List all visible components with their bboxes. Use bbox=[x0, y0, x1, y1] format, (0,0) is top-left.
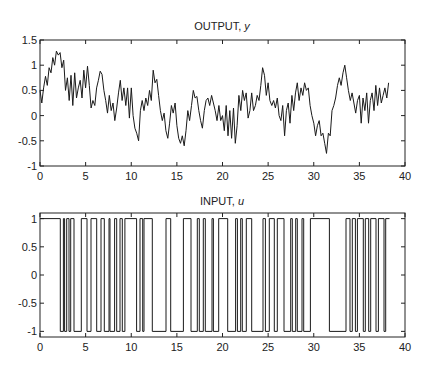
output-plot: OUTPUT, y 0510152025303540-1-0.500.511.5 bbox=[18, 20, 411, 182]
x-tick-label: 35 bbox=[353, 170, 365, 182]
x-tick-label: 10 bbox=[125, 170, 137, 182]
figure: OUTPUT, y 0510152025303540-1-0.500.511.5… bbox=[0, 0, 434, 373]
x-tick-label: 35 bbox=[353, 341, 365, 353]
x-tick-label: 15 bbox=[171, 341, 183, 353]
y-tick-label: -1 bbox=[27, 325, 37, 337]
y-tick-label: 1 bbox=[31, 213, 37, 225]
y-tick-label: 0.5 bbox=[22, 241, 37, 253]
x-tick-label: 25 bbox=[262, 341, 274, 353]
x-tick-label: 5 bbox=[83, 341, 89, 353]
x-tick-label: 5 bbox=[83, 170, 89, 182]
y-tick-label: -0.5 bbox=[18, 135, 37, 147]
x-tick-label: 0 bbox=[37, 170, 43, 182]
y-tick-label: -0.5 bbox=[18, 297, 37, 309]
x-tick-label: 25 bbox=[262, 170, 274, 182]
x-tick-label: 40 bbox=[399, 341, 411, 353]
input-plot: INPUT, u 0510152025303540-1-0.500.51 bbox=[18, 195, 411, 353]
y-tick-label: 0 bbox=[31, 110, 37, 122]
input-series-line bbox=[40, 219, 390, 332]
y-tick-label: 1 bbox=[31, 59, 37, 71]
x-tick-label: 30 bbox=[308, 170, 320, 182]
input-plot-title: INPUT, u bbox=[200, 195, 244, 207]
output-series-line bbox=[40, 51, 389, 153]
x-tick-label: 20 bbox=[216, 341, 228, 353]
x-tick-label: 0 bbox=[37, 341, 43, 353]
x-tick-label: 20 bbox=[216, 170, 228, 182]
y-tick-label: 1.5 bbox=[22, 34, 37, 46]
x-tick-label: 10 bbox=[125, 341, 137, 353]
x-tick-label: 30 bbox=[308, 341, 320, 353]
x-tick-label: 15 bbox=[171, 170, 183, 182]
y-tick-label: 0 bbox=[31, 269, 37, 281]
y-tick-label: 0.5 bbox=[22, 84, 37, 96]
y-tick-label: -1 bbox=[27, 160, 37, 172]
output-plot-title: OUTPUT, y bbox=[194, 20, 251, 32]
x-tick-label: 40 bbox=[399, 170, 411, 182]
